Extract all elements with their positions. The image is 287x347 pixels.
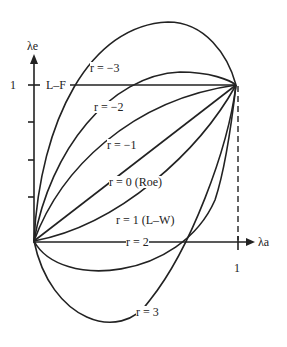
y-axis-label: λe — [27, 40, 38, 52]
curve-label-r-1: r = 1 (L–W) — [116, 214, 174, 226]
curve-label-r-neg1: r = −1 — [107, 139, 137, 151]
curve-label-r-neg3: r = −3 — [90, 62, 120, 74]
y-axis-arrow — [30, 54, 38, 64]
diagram-canvas — [0, 0, 287, 347]
y-tick-label-one: 1 — [10, 79, 16, 91]
curve-label-r-3: r = 3 — [136, 306, 159, 318]
x-tick-label-one: 1 — [234, 262, 240, 274]
curve-label-r-2: r = 2 — [126, 236, 149, 248]
x-axis-label: λa — [258, 236, 269, 248]
curve-label-r-0: r = 0 (Roe) — [109, 176, 162, 188]
curve-label-r-neg2: r = −2 — [94, 101, 124, 113]
x-axis-arrow — [246, 238, 255, 246]
curve-r-neg3 — [34, 22, 236, 241]
lf-label: L–F — [46, 79, 66, 91]
